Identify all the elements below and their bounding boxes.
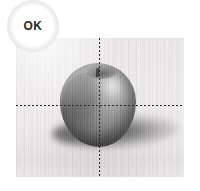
status-badge-label: OK <box>24 20 43 32</box>
inspection-viewer: OK <box>0 0 200 191</box>
apple-specular-highlight <box>104 77 124 101</box>
vertical-guide-line <box>99 38 100 177</box>
status-badge[interactable]: OK <box>7 0 59 52</box>
inspection-image-panel[interactable] <box>16 38 184 177</box>
apple-stem-cavity <box>86 66 116 79</box>
horizontal-guide-line <box>16 105 184 106</box>
